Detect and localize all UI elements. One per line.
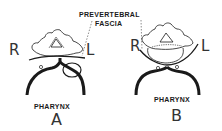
pharynx-wall-b: [136, 67, 167, 95]
panel-b-letter: B: [171, 108, 182, 124]
foramen-b: [160, 33, 173, 42]
pharynx-wall-a: [27, 58, 60, 95]
vertebra-b: [142, 23, 193, 49]
prevertebral-fascia-a: [29, 56, 85, 60]
panel-b-pharynx-label: PHARYNX: [154, 96, 190, 103]
panel-b-left-label: L: [201, 39, 209, 54]
fascia-label-line1: PREVERTEBRAL: [79, 11, 140, 18]
panel-a-right-label: R: [9, 43, 19, 58]
panel-a-pharynx-label: PHARYNX: [34, 103, 70, 110]
fascia-label-line2: FASCIA: [95, 20, 122, 27]
vertebra-a: [32, 30, 83, 56]
panel-a-drawing: [27, 21, 92, 95]
panel-b-drawing: [136, 20, 199, 95]
panel-a-letter: A: [51, 112, 62, 128]
panel-a-left-label: L: [86, 43, 94, 58]
panel-b-right-label: R: [130, 39, 140, 54]
